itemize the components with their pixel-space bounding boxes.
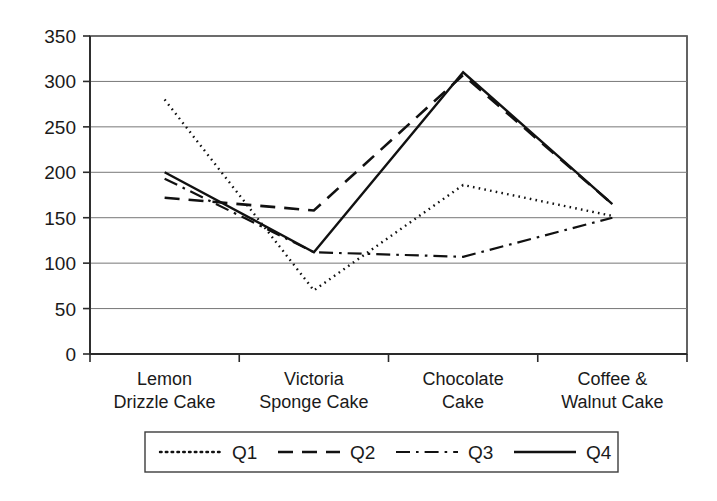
y-axis-tick-label: 100	[44, 253, 76, 274]
x-axis-ticks-group	[90, 354, 687, 362]
legend-label-q1: Q1	[232, 442, 257, 463]
y-axis-tick-label: 0	[65, 344, 76, 365]
x-axis-category-labels-group: LemonDrizzle CakeVictoriaSponge CakeChoc…	[114, 369, 664, 412]
category-label: Chocolate	[423, 369, 504, 389]
category-label: Lemon	[137, 369, 192, 389]
series-line-q4	[165, 72, 613, 252]
y-axis-tick-label: 150	[44, 208, 76, 229]
category-label: Walnut Cake	[561, 392, 663, 412]
gridlines-group	[90, 36, 687, 309]
y-axis-tick-label: 200	[44, 162, 76, 183]
line-chart-figure: 050100150200250300350 LemonDrizzle CakeV…	[0, 0, 717, 501]
legend-label-q2: Q2	[350, 442, 375, 463]
legend-label-q4: Q4	[586, 442, 612, 463]
legend-label-q3: Q3	[468, 442, 493, 463]
category-label: Drizzle Cake	[114, 392, 216, 412]
legend: Q1Q2Q3Q4	[145, 432, 618, 472]
series-line-q1	[165, 100, 613, 291]
category-label: Cake	[442, 392, 484, 412]
legend-items-group: Q1Q2Q3Q4	[160, 442, 612, 463]
y-axis-tick-label: 350	[44, 26, 76, 47]
y-axis-ticks-group	[83, 36, 90, 354]
category-label: Sponge Cake	[259, 392, 368, 412]
category-label: Victoria	[284, 369, 345, 389]
data-series-group	[165, 72, 613, 290]
chart-canvas: 050100150200250300350 LemonDrizzle CakeV…	[0, 0, 717, 501]
category-label: Coffee &	[578, 369, 648, 389]
y-axis-tick-label: 250	[44, 117, 76, 138]
y-axis-tick-label: 300	[44, 71, 76, 92]
series-line-q2	[165, 75, 613, 210]
plot-area-frame	[90, 36, 687, 354]
y-axis-tick-labels-group: 050100150200250300350	[44, 26, 76, 365]
y-axis-tick-label: 50	[55, 299, 76, 320]
